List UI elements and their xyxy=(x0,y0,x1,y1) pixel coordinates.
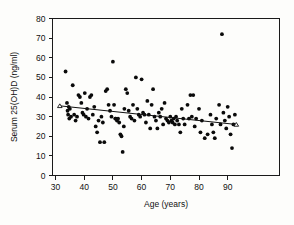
x-tick-label: 90 xyxy=(223,182,233,192)
y-axis-title: Serum 25(OH)D (ng/ml) xyxy=(9,52,19,142)
data-point xyxy=(65,101,69,105)
y-tick-label: 10 xyxy=(36,151,46,161)
y-tick-label: 50 xyxy=(36,72,46,82)
data-point xyxy=(224,126,228,130)
data-point xyxy=(151,87,155,91)
data-point xyxy=(160,107,164,111)
data-point xyxy=(154,119,158,123)
data-point xyxy=(138,115,142,119)
data-point xyxy=(91,113,95,117)
data-point xyxy=(191,93,195,97)
x-tick-label: 30 xyxy=(51,182,61,192)
data-point xyxy=(211,130,215,134)
data-point xyxy=(190,115,194,119)
data-point xyxy=(157,111,161,115)
x-tick-label: 50 xyxy=(108,182,118,192)
x-tick-label: 70 xyxy=(166,182,176,192)
data-point xyxy=(111,60,115,64)
data-point xyxy=(227,115,231,119)
data-point xyxy=(105,87,109,91)
data-point xyxy=(94,125,98,129)
data-point xyxy=(100,115,104,119)
data-point xyxy=(79,101,83,105)
y-tick-label: 40 xyxy=(36,92,46,102)
data-point xyxy=(125,91,129,95)
data-point xyxy=(213,136,217,140)
data-point xyxy=(69,115,73,119)
data-point xyxy=(230,146,234,150)
data-point xyxy=(173,123,177,127)
data-point xyxy=(78,95,82,99)
data-point xyxy=(178,130,182,134)
data-point xyxy=(155,126,159,130)
data-point xyxy=(127,109,131,113)
data-point xyxy=(133,119,137,123)
y-tick-label: 80 xyxy=(36,14,46,24)
data-point xyxy=(180,107,184,111)
data-point xyxy=(186,103,190,107)
data-point xyxy=(92,105,96,109)
data-point xyxy=(161,123,165,127)
data-point xyxy=(233,113,237,117)
data-point xyxy=(95,130,99,134)
data-point xyxy=(134,75,138,79)
data-point xyxy=(199,130,203,134)
data-point xyxy=(101,121,105,125)
data-point xyxy=(145,99,149,103)
data-point xyxy=(98,140,102,144)
data-point xyxy=(135,107,139,111)
data-point xyxy=(64,70,68,74)
x-tick-label: 80 xyxy=(194,182,204,192)
data-point xyxy=(71,83,75,87)
data-point xyxy=(102,140,106,144)
data-point xyxy=(197,107,201,111)
data-point xyxy=(74,119,78,123)
data-point xyxy=(122,125,126,129)
data-point xyxy=(87,117,91,121)
y-tick-label: 30 xyxy=(36,112,46,122)
y-tick-label: 20 xyxy=(36,131,46,141)
data-point xyxy=(206,132,210,136)
data-point xyxy=(89,93,93,97)
data-point xyxy=(110,115,114,119)
data-point xyxy=(122,107,126,111)
data-point xyxy=(217,103,221,107)
data-point xyxy=(144,121,148,125)
data-point xyxy=(210,123,214,127)
data-point xyxy=(117,121,121,125)
x-axis-title: Age (years) xyxy=(144,199,188,209)
data-point xyxy=(116,117,120,121)
data-point xyxy=(112,103,116,107)
data-point xyxy=(150,103,154,107)
data-point xyxy=(209,113,213,117)
x-tick-label: 60 xyxy=(137,182,147,192)
data-point xyxy=(163,101,167,105)
data-point xyxy=(214,117,218,121)
y-tick-label: 70 xyxy=(36,33,46,43)
data-point xyxy=(131,103,135,107)
data-point xyxy=(124,87,128,91)
data-point xyxy=(226,105,230,109)
data-point xyxy=(175,119,179,123)
data-point xyxy=(220,32,224,36)
scatter-plot: 01020304050607080 30405060708090 Age (ye… xyxy=(0,0,294,225)
data-point xyxy=(193,125,197,129)
data-point xyxy=(83,91,87,95)
data-point xyxy=(223,119,227,123)
data-point xyxy=(75,115,79,119)
data-point xyxy=(140,77,144,81)
data-point xyxy=(121,150,125,154)
data-point xyxy=(229,132,233,136)
data-point xyxy=(221,111,225,115)
data-point xyxy=(177,123,181,127)
y-tick-label: 60 xyxy=(36,53,46,63)
data-point xyxy=(107,103,111,107)
y-tick-label: 0 xyxy=(41,171,46,181)
chart-figure: 01020304050607080 30405060708090 Age (ye… xyxy=(0,0,294,225)
data-point xyxy=(97,119,101,123)
data-point xyxy=(183,123,187,127)
data-point xyxy=(203,136,207,140)
data-point xyxy=(148,126,152,130)
y-axis-ticks: 01020304050607080 xyxy=(36,14,52,181)
data-point xyxy=(120,134,124,138)
